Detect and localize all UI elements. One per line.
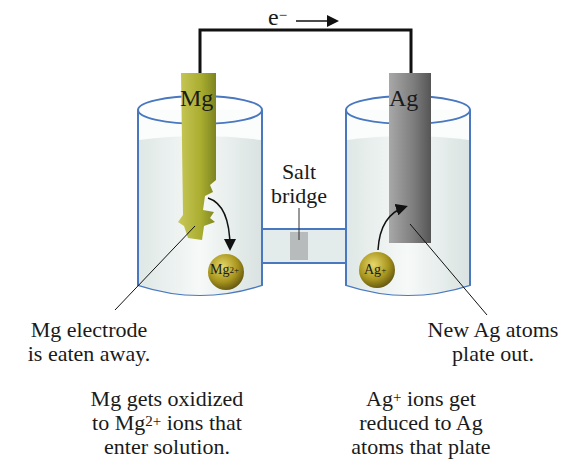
ag-atoms-caption: New Ag atoms plate out.	[408, 318, 578, 366]
ag-ion-label: Ag+	[364, 262, 386, 278]
external-wire	[200, 30, 411, 73]
mg-ion-label: Mg2+	[210, 262, 239, 278]
mg-electrode-caption: Mg electrode is eaten away.	[14, 318, 164, 366]
ag-reduced-caption: Ag+ ions get reduced to Ag atoms that pl…	[335, 387, 507, 459]
electron-label: e−	[268, 5, 287, 29]
mg-oxidized-caption: Mg gets oxidized to Mg2+ ions that enter…	[62, 387, 272, 459]
mg-electrode-label: Mg	[180, 86, 213, 110]
ag-electrode-label: Ag	[389, 86, 418, 110]
galvanic-cell-diagram: e− Mg Ag Mg2+ Ag+ Salt bridge Mg electro…	[0, 0, 581, 470]
salt-bridge-label: Salt bridge	[266, 160, 332, 208]
